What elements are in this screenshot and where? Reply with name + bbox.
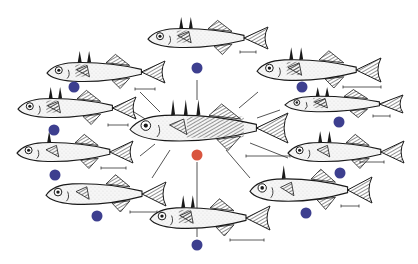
fish-upper-right xyxy=(257,47,381,88)
fish-top xyxy=(148,17,268,54)
fish-mid-right-tail-fin xyxy=(379,95,403,113)
fish-top-armor-plates xyxy=(177,31,189,43)
fish-upper-right-spine-0 xyxy=(289,47,293,60)
fish-lower-left-marker-dot xyxy=(50,170,61,181)
fish-bottom-marker-dot xyxy=(192,240,203,251)
fish-upper-left-tail-fin xyxy=(141,61,165,83)
ancestral-marker-dot xyxy=(192,150,203,161)
fish-bottom-right xyxy=(250,165,372,209)
fish-bottom-armor-plates xyxy=(179,210,191,223)
diagram-canvas xyxy=(0,0,418,264)
fish-mid-left-spine-0 xyxy=(49,87,53,99)
fish-bottom-right-marker-dot xyxy=(301,208,312,219)
fish-mid-left-armor-plates xyxy=(46,101,58,113)
fish-lower-right-marker-dot xyxy=(335,168,346,179)
ancestral-fish-armor-plates xyxy=(187,117,244,138)
fish-mid-right-armor-plates xyxy=(313,98,325,108)
fish-lower-right xyxy=(288,131,404,168)
ancestral-fish-pupil xyxy=(144,124,148,128)
fish-upper-left-marker-dot xyxy=(69,82,80,93)
fish-upper-right-pupil xyxy=(268,66,271,69)
connector-line-7 xyxy=(257,110,280,118)
fish-mid-left-tail-fin xyxy=(112,97,136,119)
fish-bottom-pupil xyxy=(160,214,163,217)
fish-mid-right-marker-dot xyxy=(334,117,345,128)
fish-upper-right-tail-fin xyxy=(356,58,381,82)
fish-top-spine-0 xyxy=(179,17,183,29)
fish-lower-right-pupil xyxy=(298,149,301,152)
fish-mid-right-spine-1 xyxy=(325,87,329,97)
fish-bottom-right-spine-0 xyxy=(282,165,286,179)
fish-mid-left-pupil xyxy=(28,105,31,108)
fish-top-spine-1 xyxy=(189,17,193,29)
connector-line-1 xyxy=(140,92,160,112)
fish-top-marker-dot xyxy=(192,63,203,74)
fish-mid-left xyxy=(18,87,136,124)
fish-lower-left-pupil xyxy=(27,149,30,152)
fish-bottom-left-pupil xyxy=(56,190,59,193)
fish-upper-right-armor-plates xyxy=(287,62,299,75)
connector-line-6 xyxy=(239,92,258,108)
fish-lower-right-spine-1 xyxy=(327,131,331,143)
fish-upper-left-spine-0 xyxy=(78,51,82,63)
fish-upper-left-pupil xyxy=(57,69,60,72)
connector-line-4 xyxy=(152,150,170,178)
connector-line-9 xyxy=(226,150,250,178)
fish-bottom xyxy=(150,195,270,236)
fish-lower-left-anal-fin xyxy=(81,158,98,168)
fish-bottom-right-anal-fin xyxy=(317,197,335,209)
fish-top-pupil xyxy=(158,35,161,38)
fish-bottom-anal-fin xyxy=(216,225,234,236)
fish-lower-right-tail-fin xyxy=(381,141,404,163)
fish-mid-right-anal-fin xyxy=(350,109,368,117)
fish-lower-left-tail-fin xyxy=(110,141,133,163)
fish-top-tail-fin xyxy=(244,27,268,49)
ancestral-fish-tail-fin xyxy=(256,113,288,143)
fish-mid-left-spine-1 xyxy=(58,87,62,99)
fish-bottom-tail-fin xyxy=(246,206,270,230)
fish-bottom-left-anal-fin xyxy=(112,201,130,212)
fish-group xyxy=(17,17,404,241)
fish-lower-left xyxy=(17,131,133,168)
fish-bottom-spine-0 xyxy=(181,195,185,208)
fish-bottom-left xyxy=(46,175,166,212)
fish-mid-left-anal-fin xyxy=(83,114,101,124)
fish-mid-right-spine-0 xyxy=(316,87,320,97)
connector-line-3 xyxy=(140,144,155,156)
fish-bottom-spine-1 xyxy=(191,195,195,208)
fish-bottom-right-pupil xyxy=(260,186,264,190)
fish-upper-left-spine-1 xyxy=(87,51,91,63)
fish-upper-right-spine-1 xyxy=(299,47,303,60)
stickleback-diagram xyxy=(0,0,418,264)
fish-bottom-left-marker-dot xyxy=(92,211,103,222)
fish-bottom-left-tail-fin xyxy=(142,182,166,206)
fish-upper-left-armor-plates xyxy=(75,65,87,77)
fish-upper-left xyxy=(47,51,165,88)
ancestral-fish-spine-0 xyxy=(171,100,175,116)
fish-upper-left-anal-fin xyxy=(112,78,130,88)
ancestral-fish xyxy=(130,100,288,151)
fish-mid-left-marker-dot xyxy=(49,125,60,136)
ancestral-fish-spine-1 xyxy=(184,100,188,116)
fish-lower-right-spine-0 xyxy=(318,131,322,143)
fish-upper-right-anal-fin xyxy=(325,77,344,88)
fish-bottom-right-tail-fin xyxy=(348,177,372,203)
fish-lower-right-anal-fin xyxy=(352,158,369,168)
fish-upper-right-marker-dot xyxy=(297,82,308,93)
fish-top-anal-fin xyxy=(214,44,232,54)
ancestral-fish-spine-2 xyxy=(196,100,200,116)
fish-mid-right-pupil xyxy=(296,101,299,104)
